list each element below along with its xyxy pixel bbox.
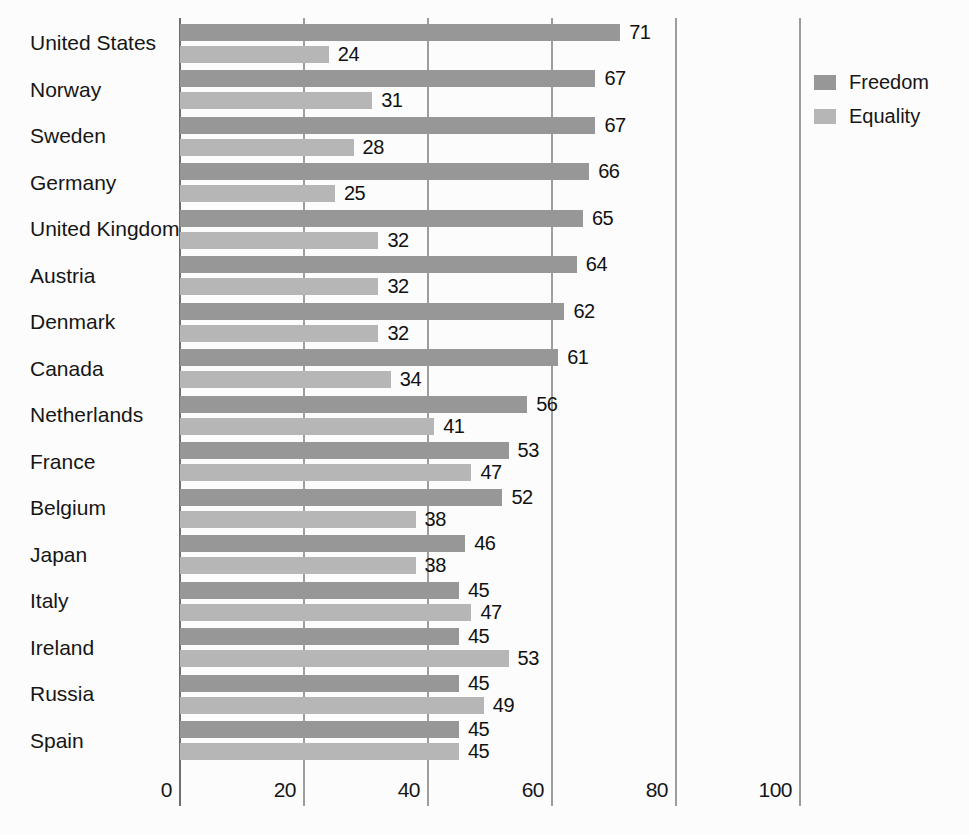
bar-line: 32 bbox=[180, 325, 969, 342]
category-label: Italy bbox=[0, 590, 180, 612]
category-label: Austria bbox=[0, 265, 180, 287]
bar-line: 64 bbox=[180, 256, 969, 273]
value-label: 45 bbox=[468, 721, 489, 738]
bar-line: 25 bbox=[180, 185, 969, 202]
bar-freedom bbox=[180, 117, 595, 134]
value-label: 32 bbox=[387, 325, 408, 342]
bar-freedom bbox=[180, 349, 558, 366]
value-label: 62 bbox=[573, 303, 594, 320]
bar-line: 53 bbox=[180, 442, 969, 459]
bar-line: 65 bbox=[180, 210, 969, 227]
bar-freedom bbox=[180, 675, 459, 692]
bar-group: 5641 bbox=[180, 396, 969, 435]
bar-group: 4547 bbox=[180, 582, 969, 621]
bar-chart: United States7124Norway6731Sweden6728Ger… bbox=[0, 0, 969, 835]
category-label: Ireland bbox=[0, 637, 180, 659]
legend-item-freedom: Freedom bbox=[814, 71, 929, 94]
value-label: 24 bbox=[338, 46, 359, 63]
bar-group: 4549 bbox=[180, 675, 969, 714]
bar-line: 28 bbox=[180, 139, 969, 156]
value-label: 38 bbox=[425, 511, 446, 528]
chart-row-belgium: Belgium5238 bbox=[0, 485, 969, 532]
bar-freedom bbox=[180, 442, 509, 459]
bar-group: 4545 bbox=[180, 721, 969, 760]
bar-line: 52 bbox=[180, 489, 969, 506]
bar-equality bbox=[180, 650, 509, 667]
bar-equality bbox=[180, 46, 329, 63]
x-tick-label-20: 20 bbox=[212, 778, 296, 802]
bar-line: 47 bbox=[180, 464, 969, 481]
value-label: 67 bbox=[604, 117, 625, 134]
legend-label-freedom: Freedom bbox=[849, 71, 929, 94]
value-label: 47 bbox=[480, 464, 501, 481]
value-label: 41 bbox=[443, 418, 464, 435]
chart-row-united-states: United States7124 bbox=[0, 20, 969, 67]
chart-row-russia: Russia4549 bbox=[0, 671, 969, 718]
bar-equality bbox=[180, 464, 471, 481]
bar-line: 38 bbox=[180, 557, 969, 574]
value-label: 45 bbox=[468, 582, 489, 599]
bar-equality bbox=[180, 92, 372, 109]
bar-freedom bbox=[180, 489, 502, 506]
bar-group: 5347 bbox=[180, 442, 969, 481]
bar-equality bbox=[180, 185, 335, 202]
bar-line: 41 bbox=[180, 418, 969, 435]
legend-label-equality: Equality bbox=[849, 105, 920, 128]
value-label: 64 bbox=[586, 256, 607, 273]
value-label: 65 bbox=[592, 210, 613, 227]
value-label: 71 bbox=[629, 24, 650, 41]
bar-line: 62 bbox=[180, 303, 969, 320]
bar-equality bbox=[180, 278, 378, 295]
bar-equality bbox=[180, 371, 391, 388]
bar-group: 6432 bbox=[180, 256, 969, 295]
x-tick-label-100: 100 bbox=[708, 778, 792, 802]
value-label: 46 bbox=[474, 535, 495, 552]
legend-item-equality: Equality bbox=[814, 105, 929, 128]
value-label: 45 bbox=[468, 675, 489, 692]
chart-row-germany: Germany6625 bbox=[0, 160, 969, 207]
chart-row-japan: Japan4638 bbox=[0, 532, 969, 579]
value-label: 49 bbox=[493, 697, 514, 714]
value-label: 67 bbox=[604, 70, 625, 87]
bar-line: 32 bbox=[180, 232, 969, 249]
bar-line: 24 bbox=[180, 46, 969, 63]
bar-equality bbox=[180, 511, 416, 528]
legend-swatch-equality bbox=[814, 109, 836, 124]
bar-group: 6232 bbox=[180, 303, 969, 342]
bar-line: 56 bbox=[180, 396, 969, 413]
bar-equality bbox=[180, 557, 416, 574]
bar-freedom bbox=[180, 70, 595, 87]
x-tick-label-60: 60 bbox=[460, 778, 544, 802]
value-label: 32 bbox=[387, 232, 408, 249]
bar-line: 45 bbox=[180, 721, 969, 738]
bar-line: 53 bbox=[180, 650, 969, 667]
bar-freedom bbox=[180, 303, 564, 320]
bar-line: 45 bbox=[180, 675, 969, 692]
bar-line: 71 bbox=[180, 24, 969, 41]
value-label: 38 bbox=[425, 557, 446, 574]
bar-equality bbox=[180, 418, 434, 435]
bar-freedom bbox=[180, 256, 577, 273]
bar-freedom bbox=[180, 24, 620, 41]
category-label: Denmark bbox=[0, 311, 180, 333]
value-label: 52 bbox=[511, 489, 532, 506]
category-label: Sweden bbox=[0, 125, 180, 147]
x-tick-label-0: 0 bbox=[88, 778, 172, 802]
category-label: Japan bbox=[0, 544, 180, 566]
chart-row-austria: Austria6432 bbox=[0, 253, 969, 300]
bar-line: 61 bbox=[180, 349, 969, 366]
category-label: France bbox=[0, 451, 180, 473]
legend: Freedom Equality bbox=[814, 71, 929, 139]
chart-row-france: France5347 bbox=[0, 439, 969, 486]
bar-line: 46 bbox=[180, 535, 969, 552]
value-label: 45 bbox=[468, 628, 489, 645]
bar-equality bbox=[180, 325, 378, 342]
bar-line: 49 bbox=[180, 697, 969, 714]
chart-row-canada: Canada6134 bbox=[0, 346, 969, 393]
chart-row-spain: Spain4545 bbox=[0, 718, 969, 765]
value-label: 28 bbox=[363, 139, 384, 156]
category-label: Canada bbox=[0, 358, 180, 380]
bar-freedom bbox=[180, 163, 589, 180]
bar-freedom bbox=[180, 396, 527, 413]
bar-line: 47 bbox=[180, 604, 969, 621]
